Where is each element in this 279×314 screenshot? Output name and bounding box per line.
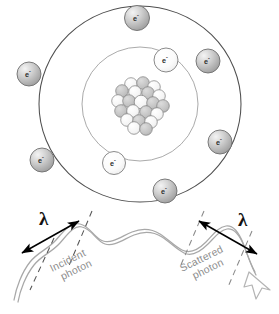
nucleon [128,122,141,135]
diagram-canvas: e- e- e- e- [0,0,279,314]
scattered-lambda-symbol: λ [238,209,248,230]
electron-outer-upper-right[interactable]: e- [196,49,220,73]
incident-photon-label: Incident photon [48,246,94,285]
nucleus [112,77,170,136]
electron-outer-top[interactable]: e- [125,6,150,31]
scattered-photon-arrowhead [244,272,270,299]
compton-scattering-figure: e- e- e- e- [0,0,279,314]
electron-inner-bottom-left[interactable]: e- [103,152,126,175]
incident-lambda-symbol: λ [39,208,49,229]
electron-outer-upper-left[interactable]: e- [17,62,41,86]
nucleon [140,123,153,136]
scattered-photon-label: Scattered photon [178,243,231,285]
electron-inner-top-right[interactable]: e- [154,48,178,72]
electron-outer-bottom[interactable]: e- [153,179,177,203]
electron-outer-lower-right[interactable]: e- [208,130,232,154]
incident-wavelength-arrow [22,221,79,253]
electron-outer-lower-left[interactable]: e- [30,148,54,172]
